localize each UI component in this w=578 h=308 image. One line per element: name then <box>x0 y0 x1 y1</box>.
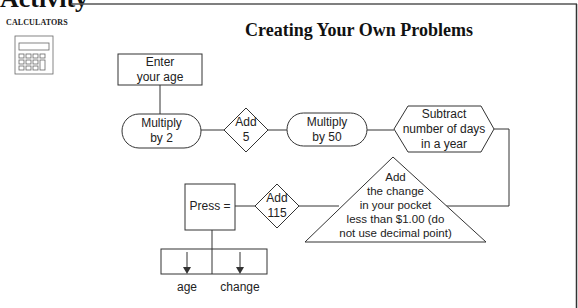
step-add-change-label: Add the change in your pocket less than … <box>305 170 486 240</box>
step-press-equals-label: Press = <box>185 199 235 214</box>
step-subtract-days-label: Subtract number of days in a year <box>394 107 494 152</box>
output-label-age: age <box>167 280 207 294</box>
output-box <box>161 249 267 274</box>
step-enter-age-label: Enter your age <box>118 55 202 85</box>
calculator-icon <box>15 36 53 74</box>
step-multiply-50-label: Multiply by 50 <box>287 115 367 145</box>
step-add-115-label: Add 115 <box>255 191 299 221</box>
flowchart <box>0 0 578 308</box>
output-label-change: change <box>215 280 265 294</box>
step-add-5-label: Add 5 <box>224 115 268 145</box>
step-multiply-2-label: Multiply by 2 <box>122 116 201 146</box>
